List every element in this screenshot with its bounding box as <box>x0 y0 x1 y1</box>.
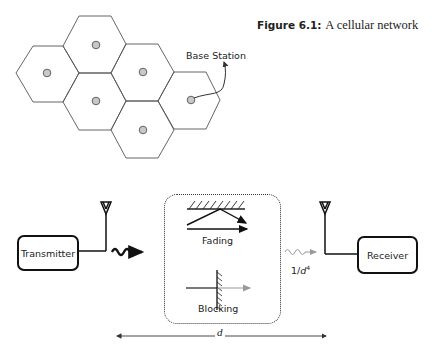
base-station-icon <box>187 96 195 104</box>
figure-number: Figure 6.1: <box>257 19 322 31</box>
base-station-icon <box>43 69 51 77</box>
receiver-label: Receiver <box>367 250 408 261</box>
cellular-network <box>16 16 220 158</box>
transmitter-antenna-icon <box>78 202 111 251</box>
figure-caption: Figure 6.1: A cellular network <box>257 18 418 33</box>
receiver-block: Receiver <box>357 236 418 274</box>
transmitter-label: Transmitter <box>21 248 75 259</box>
base-station-icon <box>92 41 100 49</box>
transmitted-signal-icon <box>112 249 142 255</box>
blocking-label: Blocking <box>198 303 238 314</box>
transmitter-block: Transmitter <box>17 235 79 271</box>
figure-caption-text: A cellular network <box>325 18 418 32</box>
base-station-icon <box>92 97 100 105</box>
base-station-icon <box>139 68 147 76</box>
received-signal-icon <box>285 250 316 255</box>
base-station-icon <box>139 126 147 134</box>
base-station-label: Base Station <box>186 50 246 61</box>
fading-label: Fading <box>202 235 233 246</box>
distance-label: d <box>217 326 223 338</box>
path-loss-label: 1/d4 <box>291 264 310 276</box>
receiver-antenna-icon <box>320 202 357 254</box>
